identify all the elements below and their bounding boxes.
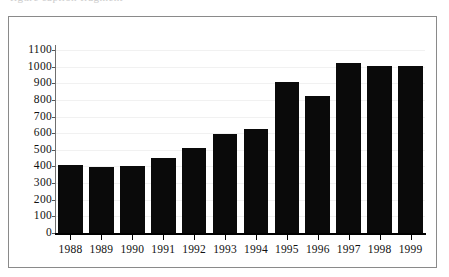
y-axis-tick-label: 600	[12, 127, 52, 139]
x-axis-tick-mark	[194, 235, 195, 240]
x-axis-tick-mark	[318, 235, 319, 240]
y-axis-tick-label: 400	[12, 160, 52, 172]
bar	[305, 96, 330, 233]
bar	[182, 148, 207, 233]
y-axis-tick-label: 900	[12, 77, 52, 89]
x-axis-tick-mark	[225, 235, 226, 240]
bar	[89, 167, 114, 233]
x-axis-tick-label: 1990	[117, 243, 148, 255]
bar	[244, 129, 269, 233]
x-axis-tick-mark	[101, 235, 102, 240]
y-axis-tick-label: 700	[12, 111, 52, 123]
bar	[120, 166, 145, 233]
bars-layer	[55, 17, 426, 267]
x-axis-tick-label: 1996	[302, 243, 333, 255]
bar	[58, 165, 83, 233]
x-axis-tick-label: 1994	[241, 243, 272, 255]
x-axis-tick-label: 1999	[395, 243, 426, 255]
x-axis-tick-mark	[70, 235, 71, 240]
y-axis-tick-label: 1000	[12, 61, 52, 73]
bar	[275, 82, 300, 233]
bar	[398, 66, 423, 233]
x-axis-tick-label: 1989	[86, 243, 117, 255]
x-axis-tick-mark	[411, 235, 412, 240]
cut-off-caption-sliver: figure caption fragment	[0, 0, 449, 7]
bar	[336, 63, 361, 233]
x-axis-tick-label: 1988	[55, 243, 86, 255]
x-axis-tick-label: 1991	[148, 243, 179, 255]
x-axis-line	[55, 233, 426, 235]
x-axis-tick-mark	[287, 235, 288, 240]
x-axis-tick-mark	[256, 235, 257, 240]
x-axis-tick-label: 1997	[333, 243, 364, 255]
y-axis-tick-label: 100	[12, 210, 52, 222]
y-axis: 010020030040050060070080090010001100	[9, 17, 52, 267]
x-axis-tick-label: 1992	[179, 243, 210, 255]
figure-frame: 010020030040050060070080090010001100 198…	[8, 16, 437, 268]
x-axis-tick-mark	[349, 235, 350, 240]
x-axis-tick-label: 1993	[210, 243, 241, 255]
y-axis-tick-label: 500	[12, 144, 52, 156]
cut-off-caption-text: figure caption fragment	[10, 0, 123, 3]
bar	[367, 66, 392, 233]
x-axis-tick-label: 1995	[271, 243, 302, 255]
x-axis-tick-mark	[380, 235, 381, 240]
y-axis-tick-label: 0	[12, 227, 52, 239]
y-axis-tick-label: 200	[12, 194, 52, 206]
x-axis-tick-mark	[132, 235, 133, 240]
y-axis-tick-label: 300	[12, 177, 52, 189]
x-axis-tick-label: 1998	[364, 243, 395, 255]
x-axis-tick-mark	[163, 235, 164, 240]
bar-chart: 010020030040050060070080090010001100 198…	[9, 17, 436, 267]
y-axis-tick-label: 1100	[12, 44, 52, 56]
y-axis-tick-label: 800	[12, 94, 52, 106]
bar	[151, 158, 176, 233]
bar	[213, 134, 238, 233]
